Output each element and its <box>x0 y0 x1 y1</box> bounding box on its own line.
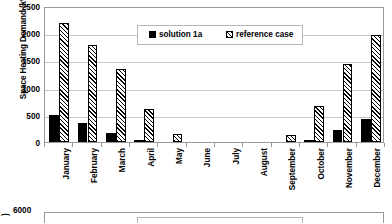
x-axis-ticks <box>44 143 384 147</box>
bar-group <box>102 8 130 142</box>
bar <box>116 69 126 142</box>
x-tick <box>101 143 102 147</box>
x-category-label: March <box>118 148 127 172</box>
bar <box>361 119 371 142</box>
bar <box>173 134 183 142</box>
x-tick <box>186 143 187 147</box>
legend-swatch-hatch-icon <box>226 31 233 38</box>
y-axis-tick-labels: 2500 2000 1500 1000 500 0 <box>10 0 40 150</box>
legend-swatch-solid-icon <box>149 31 156 38</box>
chart-legend: solution 1a reference case <box>137 25 303 45</box>
x-tick <box>356 143 357 147</box>
bar-group <box>300 8 328 142</box>
legend-label: reference case <box>236 30 293 39</box>
bar <box>343 64 353 142</box>
bar-group <box>73 8 101 142</box>
x-tick <box>44 143 45 147</box>
bar <box>134 140 144 142</box>
bar <box>49 115 59 142</box>
y-tick-label: 6000 <box>13 206 31 215</box>
x-tick <box>384 143 385 147</box>
x-category-label: April <box>147 148 156 167</box>
x-tick <box>72 143 73 147</box>
x-category-label: October <box>317 148 326 179</box>
legend-label: solution 1a <box>159 30 202 39</box>
x-category-label: February <box>90 148 99 183</box>
chart-legend <box>137 217 303 223</box>
bar-group <box>357 8 385 142</box>
x-category-label: January <box>62 148 71 179</box>
x-category-label: May <box>175 148 184 164</box>
x-category-label: July <box>232 148 241 164</box>
y-axis-title-fragment: ) <box>1 201 10 224</box>
x-tick <box>129 143 130 147</box>
legend-entry-solution-1a: solution 1a <box>149 30 202 39</box>
y-tick-label: 1500 <box>10 57 40 66</box>
x-axis-category-labels: JanuaryFebruaryMarchAprilMayJuneJulyAugu… <box>44 148 384 200</box>
bar <box>144 109 154 142</box>
bar-group <box>328 8 356 142</box>
x-tick <box>214 143 215 147</box>
x-tick <box>327 143 328 147</box>
bar <box>106 133 116 142</box>
y-tick-label: 500 <box>10 111 40 120</box>
legend-entry-reference-case: reference case <box>226 30 293 39</box>
x-category-label: August <box>260 148 269 176</box>
y-tick-label: 2500 <box>10 3 40 12</box>
x-category-label: June <box>203 148 212 167</box>
y-tick-label: 1000 <box>10 84 40 93</box>
second-chart-cropped: ) 6000 <box>0 200 392 223</box>
bar <box>371 35 381 142</box>
bar <box>286 135 296 142</box>
x-tick <box>242 143 243 147</box>
x-tick <box>271 143 272 147</box>
bar-group <box>45 8 73 142</box>
x-tick <box>299 143 300 147</box>
bar <box>88 45 98 142</box>
space-heating-demand-chart: Space Heating Demand (kWh) 2500 2000 150… <box>0 0 392 200</box>
y-tick-label: 0 <box>10 139 40 148</box>
bar <box>78 123 88 142</box>
bar <box>314 106 324 142</box>
x-category-label: September <box>288 148 297 190</box>
x-category-label: December <box>373 148 382 188</box>
x-tick <box>157 143 158 147</box>
bar <box>333 130 343 142</box>
bar <box>59 23 69 142</box>
x-category-label: November <box>345 148 354 188</box>
y-tick-label: 2000 <box>10 30 40 39</box>
bar <box>304 140 314 142</box>
